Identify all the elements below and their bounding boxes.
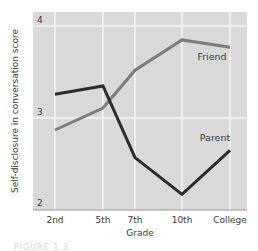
x-tick-label: 7th — [128, 215, 143, 225]
x-tick-label: 5th — [96, 215, 111, 225]
x-tick-label: 2nd — [46, 215, 63, 225]
x-tick-label: College — [213, 215, 247, 225]
x-axis-label: Grade — [126, 228, 154, 238]
y-tick-label: 4 — [37, 15, 43, 25]
series-label-friend: Friend — [197, 51, 226, 62]
series-label-parent: Parent — [200, 132, 231, 143]
x-tick-label: 10th — [172, 215, 193, 225]
x-axis-ticks: 2nd5th7th10thCollege — [46, 215, 247, 225]
figure-caption: FIGURE 1.3 — [14, 243, 69, 251]
y-axis-label: Self-disclosure in conversation score — [10, 28, 20, 193]
line-chart: 234 2nd5th7th10thCollege ParentFriend Gr… — [0, 0, 258, 251]
plot-background — [33, 12, 247, 210]
y-tick-label: 2 — [37, 198, 43, 208]
y-tick-label: 3 — [37, 107, 43, 117]
